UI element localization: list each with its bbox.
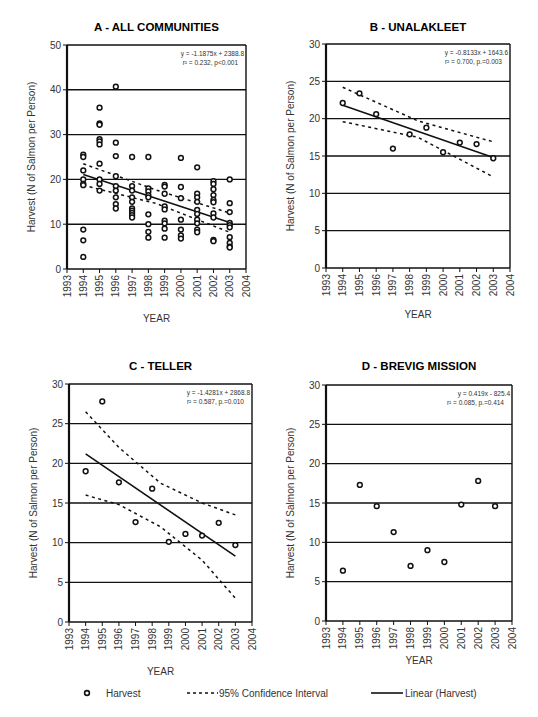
x-tick-label: 1998	[405, 627, 416, 650]
x-tick-label: 1996	[371, 627, 382, 650]
data-point	[233, 543, 238, 548]
data-point	[113, 84, 118, 89]
x-tick-label: 1999	[421, 274, 432, 297]
data-point	[357, 91, 362, 96]
data-point	[179, 227, 184, 232]
x-tick-label: 2003	[488, 274, 499, 297]
x-tick-label: 2001	[454, 274, 465, 297]
data-point	[227, 225, 232, 230]
x-tick-label: 1996	[110, 275, 121, 298]
ci-upper-line	[343, 87, 494, 142]
data-point	[357, 483, 362, 488]
data-point	[195, 221, 200, 226]
y-axis-label: Harvest (N of Salmon per Person)	[28, 428, 39, 579]
regression-equation: y = 0.419x - 825.4	[458, 390, 511, 398]
figure: A - ALL COMMUNITIES010203040501993199419…	[0, 0, 538, 717]
y-tick-label: 0	[57, 617, 63, 628]
fit-line	[86, 454, 236, 556]
data-point	[97, 122, 102, 127]
data-point	[83, 469, 88, 474]
data-point	[195, 199, 200, 204]
x-tick-label: 1994	[78, 275, 89, 298]
legend: Harvest 95% Confidence Interval Linear (…	[85, 688, 477, 699]
data-point	[211, 181, 216, 186]
data-point	[340, 101, 345, 106]
x-axis-label: YEAR	[405, 655, 432, 666]
data-point	[146, 212, 151, 217]
data-point	[113, 195, 118, 200]
data-point	[408, 564, 413, 569]
x-tick-label: 2002	[213, 628, 224, 651]
data-point	[97, 142, 102, 147]
data-point	[81, 238, 86, 243]
y-tick-label: 25	[52, 418, 64, 429]
x-tick-label: 1993	[321, 627, 332, 650]
x-tick-label: 1994	[337, 627, 348, 650]
y-tick-label: 10	[50, 219, 62, 230]
data-point	[130, 155, 135, 160]
y-tick-label: 10	[309, 537, 321, 548]
x-tick-label: 2001	[197, 628, 208, 651]
data-point	[81, 155, 86, 160]
panel-c: C - TELLER051015202530199319941995199619…	[28, 360, 258, 677]
data-point	[227, 210, 232, 215]
x-tick-label: 1993	[321, 274, 332, 297]
data-point	[211, 215, 216, 220]
data-point	[97, 161, 102, 166]
x-tick-label: 2000	[180, 628, 191, 651]
x-tick-label: 1997	[387, 274, 398, 297]
y-tick-label: 20	[50, 174, 62, 185]
x-tick-label: 1997	[388, 627, 399, 650]
data-point	[117, 480, 122, 485]
data-point	[227, 235, 232, 240]
data-point	[474, 142, 479, 147]
data-point	[97, 181, 102, 186]
data-point	[407, 132, 412, 137]
data-point	[183, 532, 188, 537]
data-point	[113, 140, 118, 145]
x-tick-label: 2003	[490, 627, 501, 650]
data-point	[374, 112, 379, 117]
panel-title: D - BREVIG MISSION	[362, 360, 476, 372]
data-point	[113, 188, 118, 193]
y-axis-label: Harvest (N of Salmon per Person)	[26, 82, 37, 233]
data-point	[162, 207, 167, 212]
y-tick-label: 0	[314, 616, 320, 627]
x-tick-label: 1995	[97, 628, 108, 651]
data-point	[195, 230, 200, 235]
fit-line	[83, 174, 229, 222]
data-point	[113, 174, 118, 179]
x-tick-label: 1995	[354, 274, 365, 297]
data-point	[146, 195, 151, 200]
data-point	[424, 125, 429, 130]
x-tick-label: 2004	[505, 274, 516, 297]
x-tick-label: 2000	[175, 275, 186, 298]
regression-stats: r² = 0.232, p<0.001	[183, 59, 239, 67]
data-point	[81, 183, 86, 188]
y-tick-label: 0	[314, 263, 320, 274]
x-tick-label: 1998	[147, 628, 158, 651]
data-point	[425, 548, 430, 553]
regression-equation: y = -0.8133x + 1643.6	[445, 49, 509, 57]
y-tick-label: 5	[314, 576, 320, 587]
data-point	[374, 504, 379, 509]
y-tick-label: 20	[309, 113, 321, 124]
x-tick-label: 2003	[230, 628, 241, 651]
data-point	[100, 399, 105, 404]
x-tick-label: 2002	[471, 274, 482, 297]
regression-equation: y = -1.4281x + 2868.8	[187, 389, 251, 397]
x-tick-label: 1996	[371, 274, 382, 297]
data-point	[491, 156, 496, 161]
fit-line	[343, 105, 494, 157]
panels: A - ALL COMMUNITIES010203040501993199419…	[26, 21, 518, 677]
data-point	[113, 206, 118, 211]
x-axis-label: YEAR	[147, 666, 174, 677]
ci-upper-line	[83, 164, 229, 213]
y-tick-label: 15	[52, 498, 64, 509]
data-point	[146, 222, 151, 227]
y-tick-label: 5	[57, 577, 63, 588]
regression-equation: y = -1.1875x + 2388.8	[181, 50, 245, 58]
x-tick-label: 1994	[337, 274, 348, 297]
y-tick-label: 15	[309, 151, 321, 162]
data-point	[166, 539, 171, 544]
